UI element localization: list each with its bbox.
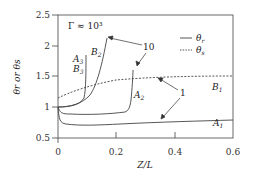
legend: θr θs bbox=[180, 33, 205, 56]
chart: 2.5 2 1.5 1 0.5 0 0.2 0.4 0.6 Z/L θr or … bbox=[0, 0, 253, 177]
ytick-1: 1 bbox=[44, 102, 50, 112]
xtick-0.4: 0.4 bbox=[168, 147, 183, 157]
y-axis-label: θr or θs bbox=[12, 59, 22, 95]
x-axis-label: Z/L bbox=[136, 160, 152, 170]
legend-theta-r: θr bbox=[196, 33, 205, 44]
ytick-1.5: 1.5 bbox=[36, 71, 51, 81]
label-1: 1 bbox=[180, 88, 186, 98]
ytick-0.5: 0.5 bbox=[36, 133, 51, 143]
label-B2: B2 bbox=[90, 47, 102, 58]
label-A2: A2 bbox=[133, 90, 145, 101]
label-A1: A1 bbox=[212, 118, 223, 129]
arrows-1 bbox=[158, 78, 180, 119]
gamma-annotation: Γ ≈ 10³ bbox=[68, 21, 103, 31]
arrows-10 bbox=[108, 36, 146, 66]
ytick-2.5: 2.5 bbox=[36, 10, 51, 20]
y-axis: 2.5 2 1.5 1 0.5 bbox=[36, 10, 58, 143]
ytick-2: 2 bbox=[44, 41, 50, 51]
xtick-0.2: 0.2 bbox=[109, 147, 123, 157]
curve-A2 bbox=[58, 70, 133, 114]
curve-A1 bbox=[58, 107, 233, 125]
xtick-0.6: 0.6 bbox=[226, 147, 241, 157]
label-B3: B3 bbox=[72, 64, 84, 75]
label-10: 10 bbox=[143, 42, 155, 52]
xtick-0: 0 bbox=[55, 147, 61, 157]
legend-theta-s: θs bbox=[196, 45, 205, 56]
label-B1: B1 bbox=[211, 82, 222, 93]
